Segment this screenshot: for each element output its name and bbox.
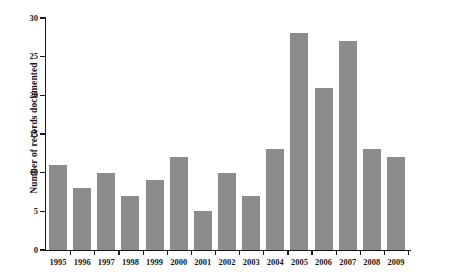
bar[interactable]: [73, 188, 91, 250]
bar[interactable]: [218, 173, 236, 250]
bar[interactable]: [242, 196, 260, 250]
x-axis-tick: [143, 250, 144, 255]
y-axis-tick: [40, 56, 45, 57]
x-axis-label: 2002: [215, 257, 239, 267]
x-axis-tick: [360, 250, 361, 255]
x-axis-tick: [287, 250, 288, 255]
y-axis-tick-label: 10: [14, 168, 38, 177]
y-axis-tick: [40, 17, 45, 18]
x-axis-label: 2007: [336, 257, 360, 267]
x-axis-tick: [408, 250, 409, 255]
x-axis-label: 2006: [311, 257, 335, 267]
x-axis-label: 2000: [167, 257, 191, 267]
x-axis-label: 2003: [239, 257, 263, 267]
x-axis-label: 2009: [384, 257, 408, 267]
x-axis-label: 1999: [143, 257, 167, 267]
bar[interactable]: [315, 88, 333, 250]
x-axis-label: 1996: [70, 257, 94, 267]
x-axis-label: 2005: [287, 257, 311, 267]
x-axis-tick: [118, 250, 119, 255]
bar[interactable]: [290, 33, 308, 250]
y-axis-tick-label: 20: [14, 91, 38, 100]
bar-chart: Number of records documented 05101520253…: [0, 0, 450, 277]
bar[interactable]: [97, 173, 115, 250]
x-axis-label: 1995: [46, 257, 70, 267]
bar[interactable]: [170, 157, 188, 250]
bar[interactable]: [266, 149, 284, 250]
x-axis-tick: [191, 250, 192, 255]
y-axis-tick: [40, 133, 45, 134]
y-axis-tick: [40, 172, 45, 173]
x-axis-tick: [70, 250, 71, 255]
bar[interactable]: [339, 41, 357, 250]
y-axis-tick: [40, 211, 45, 212]
x-axis-label: 1997: [94, 257, 118, 267]
x-axis-label: 2001: [191, 257, 215, 267]
x-axis-tick: [263, 250, 264, 255]
y-axis-tick-label: 25: [14, 52, 38, 61]
x-axis-tick: [167, 250, 168, 255]
x-axis-tick: [94, 250, 95, 255]
x-axis-label: 2004: [263, 257, 287, 267]
bar[interactable]: [49, 165, 67, 250]
y-axis-tick: [40, 95, 45, 96]
bar[interactable]: [121, 196, 139, 250]
bar[interactable]: [194, 211, 212, 250]
y-axis-tick-label: 5: [14, 207, 38, 216]
bar[interactable]: [387, 157, 405, 250]
x-axis-label: 2008: [360, 257, 384, 267]
y-axis-tick-label: 0: [14, 246, 38, 255]
x-axis-tick: [384, 250, 385, 255]
x-axis-label: 1998: [118, 257, 142, 267]
y-axis-tick-label: 15: [14, 130, 38, 139]
x-axis-tick: [311, 250, 312, 255]
y-axis-tick-label: 30: [14, 14, 38, 23]
plot-area: [46, 18, 408, 250]
x-axis-tick: [239, 250, 240, 255]
x-axis-tick: [336, 250, 337, 255]
bar[interactable]: [363, 149, 381, 250]
x-axis-tick: [215, 250, 216, 255]
bar[interactable]: [146, 180, 164, 250]
y-axis-tick: [40, 249, 45, 250]
